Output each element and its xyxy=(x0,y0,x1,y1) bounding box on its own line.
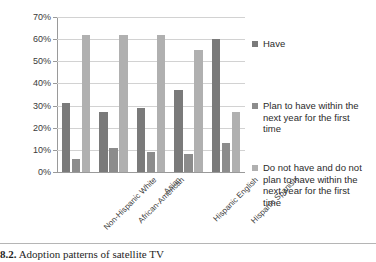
bar-chart: 0%10%20%30%40%50%60%70% Non-Hispanic Whi… xyxy=(0,0,376,236)
figure-number: 8.2. xyxy=(0,248,17,260)
bar xyxy=(194,50,203,172)
bar xyxy=(72,159,81,172)
bar-group xyxy=(132,17,170,172)
x-axis-line xyxy=(57,172,245,173)
bar xyxy=(82,35,91,172)
legend-item: Plan to have within the next year for th… xyxy=(252,100,367,135)
bar xyxy=(184,154,193,172)
bar xyxy=(62,103,71,172)
bar-group xyxy=(207,17,245,172)
y-axis-tick-label: 30% xyxy=(33,101,51,110)
bar xyxy=(232,112,241,172)
legend-swatch-icon xyxy=(252,165,258,171)
bar-group xyxy=(57,17,95,172)
legend-swatch-icon xyxy=(252,103,258,109)
y-axis-tick-mark xyxy=(53,172,57,173)
legend-swatch-icon xyxy=(252,41,258,47)
bar xyxy=(147,152,156,172)
bar-series-container xyxy=(57,17,245,172)
plot-area: 0%10%20%30%40%50%60%70% xyxy=(57,17,245,172)
legend-item: Have xyxy=(252,38,367,50)
bar-group xyxy=(95,17,133,172)
figure-container: 0%10%20%30%40%50%60%70% Non-Hispanic Whi… xyxy=(0,0,376,262)
y-axis-tick-label: 50% xyxy=(33,57,51,66)
y-axis-tick-label: 60% xyxy=(33,35,51,44)
bar xyxy=(137,108,146,172)
y-axis-tick-label: 70% xyxy=(33,13,51,22)
bar xyxy=(119,35,128,172)
figure-caption-text: Adoption patterns of satellite TV xyxy=(19,248,164,260)
y-axis-tick-label: 10% xyxy=(33,145,51,154)
figure-caption: 8.2. Adoption patterns of satellite TV xyxy=(0,248,376,261)
y-axis-tick-label: 20% xyxy=(33,123,51,132)
y-axis-tick-label: 0% xyxy=(38,168,51,177)
bar xyxy=(212,39,221,172)
legend-label: Do not have and do not plan to have with… xyxy=(263,162,367,208)
bar xyxy=(109,148,118,172)
y-axis-tick-label: 40% xyxy=(33,79,51,88)
bar xyxy=(174,90,183,172)
bar xyxy=(222,143,231,172)
legend-label: Plan to have within the next year for th… xyxy=(263,100,367,135)
bar xyxy=(157,35,166,172)
legend-label: Have xyxy=(263,38,367,50)
bar xyxy=(99,112,108,172)
caption-divider xyxy=(0,243,376,244)
legend-item: Do not have and do not plan to have with… xyxy=(252,162,367,208)
bar-group xyxy=(170,17,208,172)
